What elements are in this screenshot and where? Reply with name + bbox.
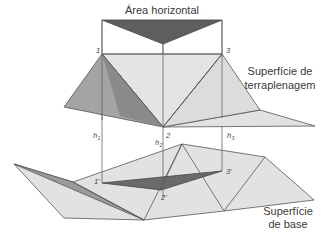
point-1-label: 1 [96,46,100,55]
base-surface-label-line1: Superfície [263,205,313,217]
horizontal-area-triangle [102,20,222,44]
earthwork-volume-diagram: Área horizontal Superfície de terraplena… [0,0,325,233]
point-1-base-label: 1' [94,177,100,186]
base-surface-label-line2: de base [268,218,307,230]
h1-sub: 1 [98,135,101,141]
h2-sub: 2 [159,142,163,148]
point-3-label: 3 [226,46,231,55]
point-2-label: 2 [165,131,171,140]
horizontal-area [102,20,222,54]
horizontal-area-label: Área horizontal [125,4,199,16]
point-3-base-label: 3' [226,167,232,176]
fill-surface-label-line1: Superfície de [248,65,313,77]
fill-surface-label-line2: terraplenagem [245,79,316,91]
point-2-base-label: 2' [160,193,167,202]
h3-sub: 3 [232,135,235,141]
height-label-h3: h 3 [227,131,235,141]
height-label-h2: h 2 [155,138,163,148]
height-label-h1: h 1 [93,131,101,141]
